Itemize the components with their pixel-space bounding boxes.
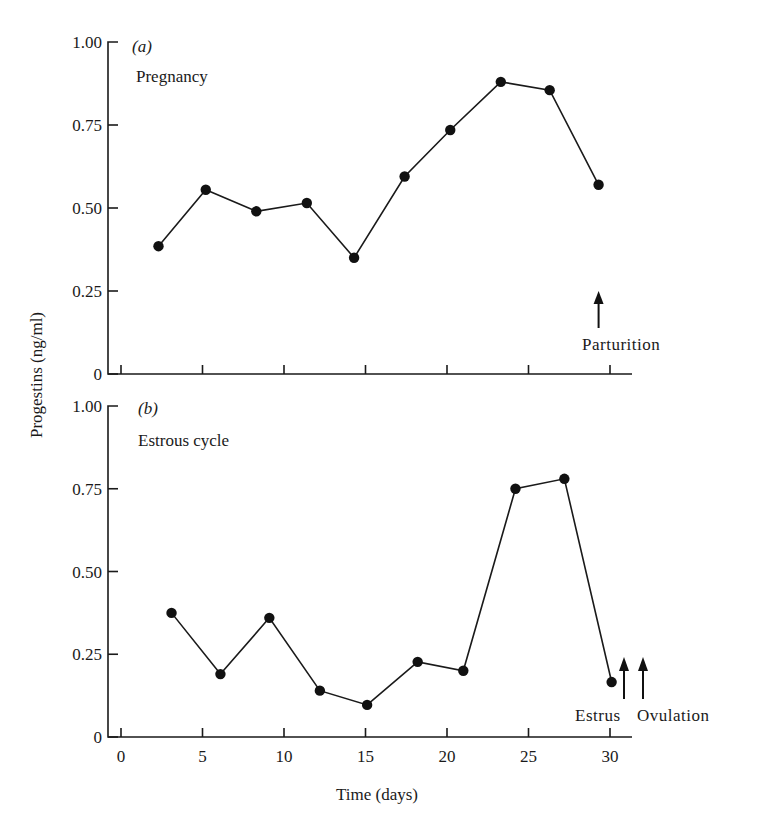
data-point: [251, 206, 261, 216]
y-tick-label: 0.50: [72, 199, 102, 218]
panel-estrous-cycle: (b) Estrous cycle 00.250.500.751.00 Estr…: [72, 397, 709, 766]
y-tick-label: 1.00: [72, 33, 102, 52]
annotation-parturition: Parturition: [582, 335, 660, 354]
x-tick-label: 10: [276, 747, 293, 766]
x-tick-label: 15: [357, 747, 374, 766]
chart-canvas: Progestins (ng/ml) (a) Pregnancy 00.250.…: [0, 0, 758, 828]
data-point: [215, 669, 225, 679]
panel-b-title: Estrous cycle: [138, 431, 229, 450]
y-tick-label: 0: [94, 365, 103, 384]
annotation-ovulation: Ovulation: [637, 706, 710, 725]
y-tick-label: 0: [94, 728, 103, 747]
panel-b-series: [166, 474, 617, 710]
y-tick-label: 1.00: [72, 397, 102, 416]
series-line: [172, 479, 612, 705]
panel-a-annotations: Parturition: [582, 291, 660, 354]
y-tick-label: 0.75: [72, 116, 102, 135]
axis-lines: [108, 406, 632, 737]
panel-a-tag: (a): [132, 37, 152, 56]
data-point: [201, 185, 211, 195]
data-point: [315, 685, 325, 695]
y-tick-label: 0.25: [72, 645, 102, 664]
data-point: [544, 85, 554, 95]
x-tick-labels: 051015202530: [117, 747, 619, 766]
x-tick-label: 5: [198, 747, 207, 766]
data-point: [496, 77, 506, 87]
data-point: [606, 677, 616, 687]
panel-a-title: Pregnancy: [136, 67, 208, 86]
data-point: [264, 613, 274, 623]
x-tick-label: 0: [117, 747, 126, 766]
arrow-head-icon: [638, 657, 648, 671]
panel-b-annotations: EstrusOvulation: [575, 657, 710, 725]
data-point: [458, 666, 468, 676]
data-point: [349, 253, 359, 263]
data-point: [399, 171, 409, 181]
panel-pregnancy: (a) Pregnancy 00.250.500.751.00 Parturit…: [72, 33, 660, 384]
annotation-estrus: Estrus: [575, 706, 621, 725]
data-point: [302, 198, 312, 208]
x-tick-label: 20: [439, 747, 456, 766]
data-point: [559, 474, 569, 484]
x-tick-label: 30: [602, 747, 619, 766]
data-point: [593, 180, 603, 190]
series-line: [158, 82, 598, 258]
data-point: [362, 700, 372, 710]
y-tick-label: 0.50: [72, 563, 102, 582]
data-point: [412, 657, 422, 667]
data-point: [510, 484, 520, 494]
panel-b-tag: (b): [138, 399, 158, 418]
x-tick-label: 25: [520, 747, 537, 766]
y-axis-title: Progestins (ng/ml): [27, 312, 46, 438]
y-tick-label: 0.25: [72, 282, 102, 301]
y-tick-label: 0.75: [72, 480, 102, 499]
x-axis-title: Time (days): [336, 785, 418, 804]
data-point: [153, 241, 163, 251]
data-point: [166, 608, 176, 618]
arrow-head-icon: [594, 291, 604, 304]
panel-a-series: [153, 77, 604, 263]
progestins-figure: Progestins (ng/ml) (a) Pregnancy 00.250.…: [0, 0, 758, 828]
data-point: [445, 125, 455, 135]
arrow-head-icon: [619, 657, 629, 671]
